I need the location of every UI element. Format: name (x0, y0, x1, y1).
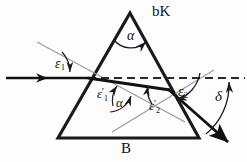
deviation-angle-label: δ (215, 89, 222, 104)
base-label: B (121, 141, 131, 156)
internal-incidence-angle-subscript: 2 (156, 106, 160, 115)
apex-angle-label: α (127, 29, 134, 43)
exit-angle-label: ε2 (178, 85, 188, 100)
incoming-ray (6, 73, 88, 83)
incidence-angle-subscript: 1 (61, 62, 65, 72)
exit-angle-subscript: 2 (184, 90, 188, 100)
prism-refraction-figure: bK B α α ε1 ε'1 ε'2 ε2 δ (0, 0, 247, 162)
incidence-angle-label: ε1 (55, 57, 65, 72)
exit-angle-symbol: ε (178, 84, 184, 99)
internal-refraction-angle-label: ε'1 (97, 87, 108, 103)
inner-apex-angle-label: α (116, 96, 123, 109)
prism-diagram-canvas (0, 0, 247, 162)
incidence-angle-symbol: ε (55, 56, 61, 71)
internal-incidence-angle-label: ε'2 (149, 99, 160, 115)
glass-type-label: bK (152, 4, 170, 19)
internal-refraction-angle-subscript: 1 (104, 94, 108, 103)
